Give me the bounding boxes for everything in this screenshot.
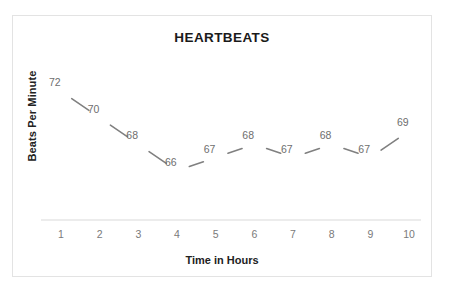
data-point-label: 68 xyxy=(242,129,254,141)
x-tick-label: 1 xyxy=(46,228,76,240)
x-tick-label: 3 xyxy=(123,228,153,240)
data-point-label: 68 xyxy=(126,129,138,141)
data-point-label: 67 xyxy=(204,143,216,155)
x-tick-label: 8 xyxy=(317,228,347,240)
data-point-label: 70 xyxy=(88,103,100,115)
data-line-segment xyxy=(149,152,166,164)
data-point-label: 69 xyxy=(397,116,409,128)
data-line-series xyxy=(72,99,399,167)
data-line-segment xyxy=(110,125,127,137)
x-tick-label: 2 xyxy=(85,228,115,240)
x-tick-label: 4 xyxy=(162,228,192,240)
chart-frame: HEARTBEATS Beats Per Minute 727068666768… xyxy=(12,15,432,277)
x-tick-label: 6 xyxy=(239,228,269,240)
x-axis-title: Time in Hours xyxy=(13,254,431,266)
data-point-label: 72 xyxy=(49,76,61,88)
x-tick-label: 5 xyxy=(201,228,231,240)
plot-area: 72706866676867686769 12345678910 xyxy=(13,16,433,278)
data-line-segment xyxy=(267,148,281,153)
data-line-segment xyxy=(344,148,358,153)
data-line-segment xyxy=(305,148,319,153)
data-point-label: 68 xyxy=(320,129,332,141)
data-line-segment xyxy=(72,99,89,111)
data-point-label: 66 xyxy=(165,156,177,168)
data-point-label: 67 xyxy=(358,143,370,155)
x-tick-label: 10 xyxy=(394,228,424,240)
data-line-segment xyxy=(189,162,203,167)
x-tick-label: 9 xyxy=(355,228,385,240)
data-line-segment xyxy=(381,138,398,150)
data-line-segment xyxy=(228,148,242,153)
x-tick-label: 7 xyxy=(278,228,308,240)
data-point-label: 67 xyxy=(281,143,293,155)
